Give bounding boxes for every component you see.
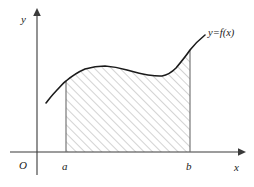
origin-label: O	[19, 159, 27, 171]
y-axis-label: y	[20, 13, 26, 25]
lower-bound-label: a	[62, 160, 68, 172]
figure-container: y x O a b y=f(x)	[0, 0, 254, 187]
curve-function-label: y=f(x)	[207, 27, 235, 39]
upper-bound-label: b	[186, 160, 192, 172]
y-axis	[33, 8, 41, 175]
x-axis-label: x	[233, 161, 239, 173]
y-axis-arrow-icon	[33, 8, 41, 16]
integral-area-figure: y x O a b y=f(x)	[0, 0, 254, 187]
x-axis-arrow-icon	[238, 148, 246, 156]
